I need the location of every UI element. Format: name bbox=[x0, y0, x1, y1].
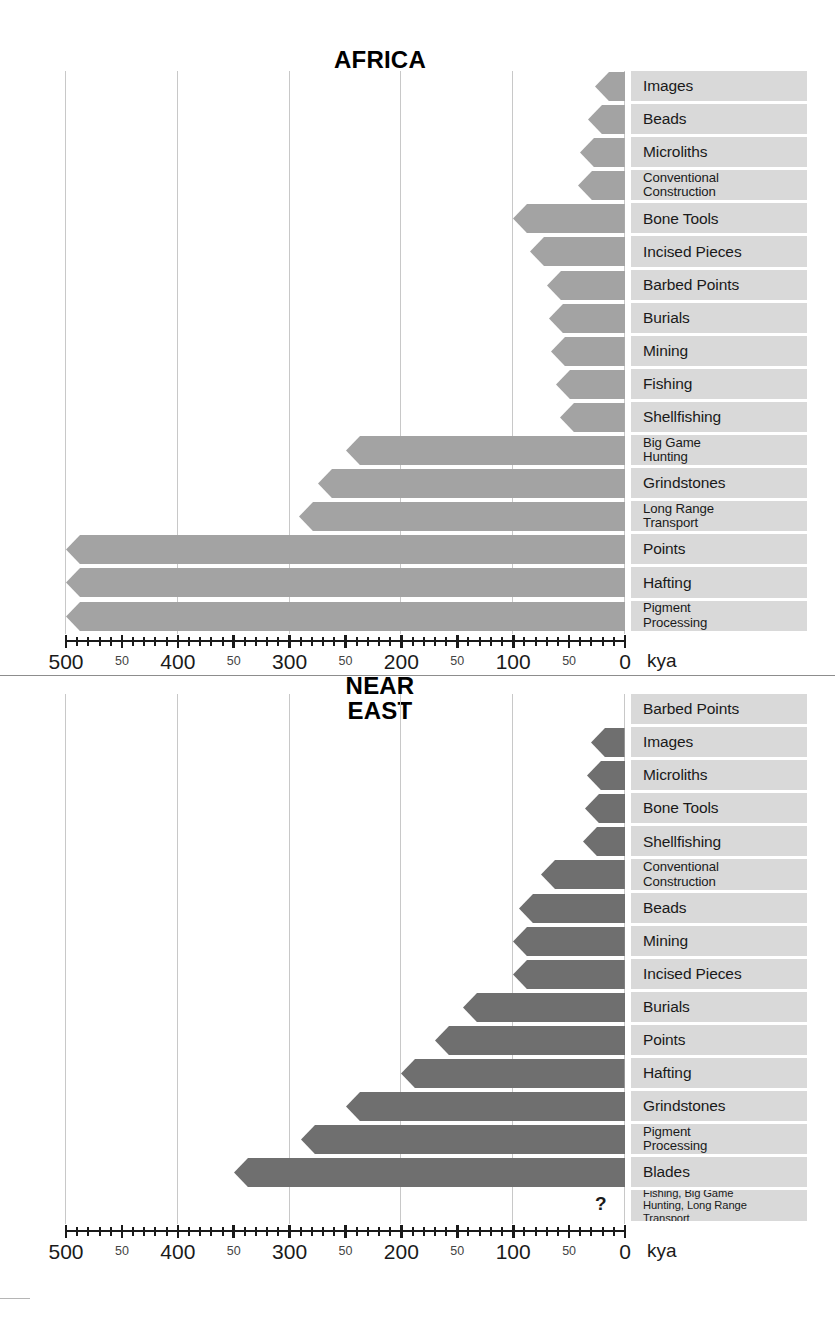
category-label: Burials bbox=[631, 303, 807, 333]
plot-area-africa bbox=[66, 71, 625, 634]
axis-tick bbox=[166, 637, 168, 646]
axis-tick bbox=[166, 1227, 168, 1236]
bar bbox=[299, 502, 625, 531]
axis-tick bbox=[378, 1227, 380, 1236]
bar bbox=[513, 204, 625, 233]
bar-row bbox=[66, 1058, 625, 1091]
category-label-text: Burials bbox=[643, 999, 807, 1015]
category-label: Barbed Points bbox=[631, 270, 807, 300]
axis-tick-label: 300 bbox=[272, 1240, 307, 1264]
axis-tick bbox=[300, 637, 302, 646]
category-label: Blades bbox=[631, 1157, 807, 1187]
axis-tick-label: 50 bbox=[562, 654, 576, 668]
axis-tick bbox=[121, 635, 124, 648]
category-label: Images bbox=[631, 727, 807, 757]
bar-row bbox=[66, 567, 625, 600]
bar bbox=[346, 1092, 626, 1121]
bar-row bbox=[66, 992, 625, 1025]
axis-tick bbox=[535, 637, 537, 646]
axis-tick bbox=[232, 635, 235, 648]
axis-tick bbox=[479, 1227, 481, 1236]
axis-tick bbox=[99, 637, 101, 646]
axis-tick bbox=[490, 1227, 492, 1236]
axis-tick bbox=[288, 1225, 291, 1238]
plot-area-near-east bbox=[66, 694, 625, 1224]
category-label-text: Microliths bbox=[643, 144, 807, 160]
axis-tick bbox=[624, 635, 627, 648]
axis-tick bbox=[177, 1225, 180, 1238]
bar-row bbox=[66, 501, 625, 534]
category-label: Points bbox=[631, 534, 807, 564]
bar bbox=[530, 237, 625, 266]
bar bbox=[541, 860, 625, 889]
category-label: Microliths bbox=[631, 760, 807, 790]
category-label-text: Conventional Construction bbox=[643, 171, 807, 200]
bar-row bbox=[66, 1124, 625, 1157]
axis-tick bbox=[288, 635, 291, 648]
archaeology-timeline-figure: AFRICA ImagesBeadsMicrolithsConventional… bbox=[0, 0, 835, 1326]
axis-tick bbox=[344, 635, 347, 648]
category-label-text: Fishing bbox=[643, 376, 807, 392]
axis-tick bbox=[199, 1227, 201, 1236]
category-label: Shellfishing bbox=[631, 402, 807, 432]
axis-tick-label: 400 bbox=[160, 1240, 195, 1264]
category-label-text: Incised Pieces bbox=[643, 966, 807, 982]
axis-tick bbox=[277, 637, 279, 646]
bar-row bbox=[66, 859, 625, 892]
axis-tick bbox=[65, 1225, 68, 1238]
axis-tick-label: 0 bbox=[619, 650, 631, 674]
axis-tick bbox=[579, 1227, 581, 1236]
axis-tick bbox=[400, 635, 403, 648]
bar bbox=[551, 337, 625, 366]
axis-tick bbox=[613, 637, 615, 646]
axis-tick bbox=[490, 637, 492, 646]
axis-tick-label: 500 bbox=[48, 650, 83, 674]
category-label-text: Shellfishing bbox=[643, 834, 807, 850]
category-label-text: Bone Tools bbox=[643, 211, 807, 227]
bar bbox=[346, 436, 626, 465]
axis-tick bbox=[244, 1227, 246, 1236]
category-label: Pigment Processing bbox=[631, 601, 807, 631]
bar bbox=[401, 1059, 625, 1088]
bar bbox=[513, 927, 625, 956]
bar-row bbox=[66, 1190, 625, 1223]
axis-tick bbox=[210, 1227, 212, 1236]
axis-tick bbox=[523, 1227, 525, 1236]
axis-tick bbox=[467, 637, 469, 646]
category-label-text: Barbed Points bbox=[643, 701, 807, 717]
axis-tick bbox=[412, 1227, 414, 1236]
category-label-text: Beads bbox=[643, 900, 807, 916]
axis-tick bbox=[255, 1227, 257, 1236]
category-label-text: Grindstones bbox=[643, 1098, 807, 1114]
bar bbox=[66, 568, 625, 597]
axis-tick-label: 50 bbox=[562, 1244, 576, 1258]
bar-row bbox=[66, 826, 625, 859]
bar-row bbox=[66, 1025, 625, 1058]
axis-tick bbox=[378, 637, 380, 646]
axis-tick bbox=[65, 635, 68, 648]
axis-tick-label: 50 bbox=[339, 1244, 353, 1258]
axis-tick bbox=[322, 1227, 324, 1236]
category-label: Hafting bbox=[631, 567, 807, 597]
bar bbox=[588, 105, 625, 134]
axis-tick bbox=[177, 635, 180, 648]
axis-tick bbox=[412, 637, 414, 646]
axis-tick bbox=[132, 1227, 134, 1236]
bar-row bbox=[66, 170, 625, 203]
bar-row bbox=[66, 303, 625, 336]
axis-unit-label: kya bbox=[647, 650, 677, 672]
axis-tick bbox=[456, 635, 459, 648]
bar bbox=[513, 960, 625, 989]
category-label-text: Beads bbox=[643, 111, 807, 127]
axis-tick bbox=[434, 637, 436, 646]
category-label: Hafting bbox=[631, 1058, 807, 1088]
category-label-text: Mining bbox=[643, 343, 807, 359]
axis-tick bbox=[479, 637, 481, 646]
axis-tick bbox=[367, 637, 369, 646]
axis-tick bbox=[501, 1227, 503, 1236]
bar bbox=[66, 602, 625, 631]
axis-tick bbox=[590, 1227, 592, 1236]
axis-tick bbox=[602, 637, 604, 646]
bar-row bbox=[66, 236, 625, 269]
bar bbox=[66, 535, 625, 564]
